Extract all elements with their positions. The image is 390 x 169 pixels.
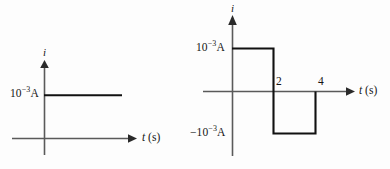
right-amplitude-positive-mantissa: 10 xyxy=(196,41,208,53)
right-amplitude-negative-mantissa: 10 xyxy=(197,126,209,138)
left-x-axis-label-unit: (s) xyxy=(148,131,160,143)
left-y-axis-label: i xyxy=(43,47,46,58)
right-x-axis xyxy=(203,87,355,95)
right-x-tick-label-2: 2 xyxy=(276,76,282,88)
right-x-axis-label-var: t xyxy=(359,84,362,96)
right-x-axis-label-unit: (s) xyxy=(365,84,377,96)
left-x-axis-arrowhead xyxy=(128,134,137,142)
right-amplitude-positive-label: 10−3A xyxy=(196,42,225,54)
left-amplitude-mantissa: 10 xyxy=(10,87,22,99)
right-y-axis-label: i xyxy=(231,3,234,14)
figure-left-dc-waveform: i 10−3A t (s) xyxy=(0,0,195,169)
left-amplitude-unit: A xyxy=(30,87,38,99)
right-amplitude-negative-exponent: −3 xyxy=(208,124,217,133)
right-amplitude-negative-label: −10−3A xyxy=(190,127,225,139)
right-amplitude-negative-sign: − xyxy=(190,126,197,138)
right-amplitude-negative-unit: A xyxy=(217,126,225,138)
right-x-axis-label: t (s) xyxy=(359,85,377,97)
figure-page: i 10−3A t (s) xyxy=(0,0,390,169)
right-x-axis-arrowhead xyxy=(346,87,355,95)
left-y-axis-arrowhead xyxy=(40,60,49,68)
left-amplitude-label: 10−3A xyxy=(10,88,39,100)
left-x-axis xyxy=(12,134,137,142)
left-x-axis-label: t (s) xyxy=(142,132,160,144)
figure-right-square-wave: i 10−3A −10−3A 2 4 t (s) xyxy=(195,0,390,169)
right-y-axis-arrowhead xyxy=(228,15,237,25)
right-y-axis xyxy=(228,15,237,156)
right-x-tick-label-4: 4 xyxy=(318,76,324,88)
right-amplitude-positive-unit: A xyxy=(216,41,224,53)
left-x-axis-label-var: t xyxy=(142,131,145,143)
left-y-axis xyxy=(40,60,49,155)
